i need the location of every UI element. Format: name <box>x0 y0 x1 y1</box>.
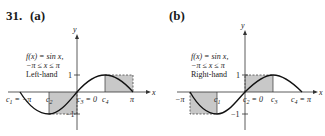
svg-text:c1: c1 <box>214 95 221 105</box>
sine-plot-b: x y 1 −1 −π c1 c2 = 0 c3 c4 = π <box>165 0 325 136</box>
svg-text:x: x <box>151 88 156 97</box>
sine-plot-a: x y 1 −1 c1 = −π c2 c3 = 0 c4 π <box>0 0 165 136</box>
svg-text:c4: c4 <box>102 95 109 105</box>
svg-text:1: 1 <box>68 71 72 80</box>
svg-text:y: y <box>72 25 77 34</box>
svg-text:−1: −1 <box>66 110 75 119</box>
svg-text:c3 = 0: c3 = 0 <box>77 95 97 105</box>
svg-text:−1: −1 <box>231 110 240 119</box>
svg-text:1: 1 <box>236 71 240 80</box>
svg-text:c3: c3 <box>271 95 278 105</box>
rect-c1-b <box>190 92 217 114</box>
svg-text:c2 = 0: c2 = 0 <box>243 95 263 105</box>
svg-text:c1 = −π: c1 = −π <box>6 95 32 105</box>
rect-c3-b <box>245 75 273 92</box>
svg-text:x: x <box>318 88 323 97</box>
svg-text:π: π <box>130 95 135 104</box>
rect-c4-a <box>105 75 133 92</box>
svg-text:−π: −π <box>175 95 185 104</box>
svg-text:y: y <box>240 21 245 30</box>
figure-panel-a: 31. (a) f(x) = sin x, −π ≤ x ≤ π Left-ha… <box>0 0 165 136</box>
svg-text:c4 = π: c4 = π <box>291 95 312 105</box>
figure-panel-b: (b) f(x) = sin x, −π ≤ x ≤ π Right-hand … <box>165 0 325 136</box>
